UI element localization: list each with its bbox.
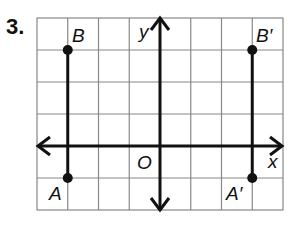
point-A	[63, 173, 73, 183]
point-B	[63, 45, 73, 55]
point-B-prime	[247, 45, 257, 55]
origin-label: O	[137, 152, 152, 173]
label-B: B	[72, 25, 85, 46]
label-A-prime: A′	[225, 183, 244, 204]
x-axis-label: x	[267, 151, 279, 172]
coordinate-graph: B A B′ A′ y x O	[0, 0, 298, 229]
label-A: A	[48, 183, 62, 204]
label-B-prime: B′	[256, 25, 274, 46]
y-axis-label: y	[137, 21, 150, 42]
point-A-prime	[247, 173, 257, 183]
